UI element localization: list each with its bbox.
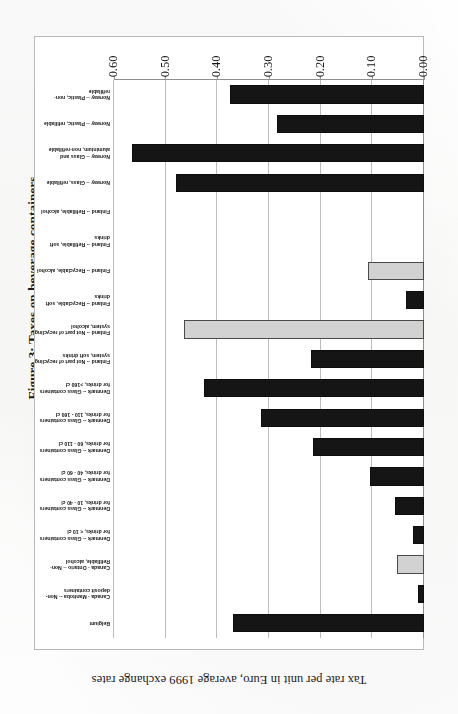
- value-axis: 0.000.100.200.300.400.500.60: [114, 36, 424, 80]
- category-label: Belgium: [34, 609, 114, 638]
- category-label: Denmark -- Glass containers for drinks, …: [34, 462, 114, 491]
- bar-row: [114, 432, 424, 461]
- bar-row: [114, 109, 424, 138]
- axis-tick: 0.10: [362, 59, 384, 80]
- bar: [418, 585, 424, 603]
- bar-row: [114, 80, 424, 109]
- bar-row: [114, 609, 424, 638]
- bar: [277, 115, 424, 133]
- value-axis-title: Tax rate per unit in Euro, average 1999 …: [10, 672, 448, 687]
- category-label: Finland -- Refillable, alcohol: [34, 197, 114, 226]
- bar-row: [114, 374, 424, 403]
- category-label: Norway -- Glass and aluminium, non-refil…: [34, 139, 114, 168]
- category-label: Norway -- Plastic, refillable: [34, 109, 114, 138]
- tick-label: 0.50: [158, 56, 173, 78]
- bar-row: [114, 491, 424, 520]
- tick-label: 0.40: [210, 56, 225, 78]
- bar-row: [114, 344, 424, 373]
- bar-row: [114, 227, 424, 256]
- tick-label: 0.60: [107, 56, 122, 78]
- bar-row: [114, 256, 424, 285]
- bar-row: [114, 168, 424, 197]
- bar: [230, 85, 424, 103]
- axis-tick: 0.30: [258, 59, 280, 80]
- bar-row: [114, 579, 424, 608]
- bar: [184, 320, 424, 338]
- category-label: Denmark -- Glass containers for drinks, …: [34, 491, 114, 520]
- bar: [233, 614, 424, 632]
- bar: [132, 144, 424, 162]
- axis-tick: 0.40: [207, 59, 229, 80]
- bar-row: [114, 139, 424, 168]
- bar: [397, 555, 424, 573]
- axis-tick: 0.50: [155, 59, 177, 80]
- bar: [370, 467, 424, 485]
- category-label: Canada - Manitoba -- Non-deposit contain…: [34, 579, 114, 608]
- bar-row: [114, 462, 424, 491]
- category-label: Norway -- Plastic, non-refillable: [34, 80, 114, 109]
- category-label: Denmark -- Glass containers for drinks, …: [34, 403, 114, 432]
- bar: [176, 174, 424, 192]
- tick-label: 0.00: [417, 56, 432, 78]
- category-label: Finland -- Recyclable, alcohol: [34, 256, 114, 285]
- bar-chart: BelgiumCanada - Manitoba -- Non-deposit …: [34, 36, 424, 650]
- category-label: Denmark -- Glass containers for drinks, …: [34, 432, 114, 461]
- bar: [406, 291, 424, 309]
- tick-label: 0.20: [313, 56, 328, 78]
- tick-label: 0.30: [262, 56, 277, 78]
- category-label: Finland -- Refillable, soft drinks: [34, 227, 114, 256]
- bar: [204, 379, 424, 397]
- category-label: Denmark -- Glass containers for drinks, …: [34, 374, 114, 403]
- bar: [313, 438, 424, 456]
- category-label: Finland -- Recyclable, soft drinks: [34, 286, 114, 315]
- bar-row: [114, 403, 424, 432]
- category-labels: BelgiumCanada - Manitoba -- Non-deposit …: [34, 80, 114, 638]
- bar-series: [114, 80, 424, 638]
- category-label: Denmark -- Glass containers for drinks, …: [34, 521, 114, 550]
- plot-area: [114, 80, 424, 638]
- axis-tick: 0.20: [310, 59, 332, 80]
- category-label: Norway -- Glass, refillable: [34, 168, 114, 197]
- bar: [395, 497, 424, 515]
- bar-row: [114, 521, 424, 550]
- bar: [261, 409, 424, 427]
- category-label: Finland -- Not part of recycling system,…: [34, 344, 114, 373]
- tick-label: 0.10: [365, 56, 380, 78]
- bar-row: [114, 550, 424, 579]
- category-label: Finland -- Not part of recycling system,…: [34, 315, 114, 344]
- bar: [311, 350, 424, 368]
- bar: [413, 526, 424, 544]
- bar-row: [114, 315, 424, 344]
- axis-tick: 0.60: [103, 59, 125, 80]
- axis-tick: 0.00: [413, 59, 435, 80]
- bar: [368, 262, 424, 280]
- category-label: Canada - Ontario -- Non-Refillable, alco…: [34, 550, 114, 579]
- bar-row: [114, 197, 424, 226]
- bar-row: [114, 286, 424, 315]
